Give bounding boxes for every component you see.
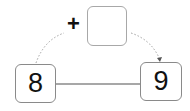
start-number: 8	[28, 70, 43, 97]
answer-box[interactable]	[87, 6, 127, 46]
dotted-arc-left	[36, 33, 64, 63]
plus-operator: +	[67, 13, 80, 35]
end-number-box: 9	[140, 62, 182, 101]
dotted-arc-right	[131, 33, 160, 60]
end-number: 9	[153, 68, 168, 95]
start-number-box: 8	[15, 64, 56, 103]
